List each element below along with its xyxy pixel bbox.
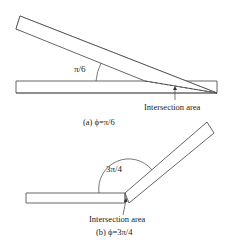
- diagram-svg: π/6 Intersection area (a) ϕ=π/6 3π/4 Int…: [0, 0, 230, 247]
- intersection-label-a: Intersection area: [144, 102, 201, 112]
- panel-b: 3π/4 Intersection area (b) ϕ=3π/4: [26, 122, 214, 237]
- angle-arc-a: [96, 63, 101, 81]
- horizontal-bar-b: [26, 193, 125, 203]
- angle-label-a: π/6: [74, 64, 86, 74]
- caption-a: (a) ϕ=π/6: [83, 117, 115, 127]
- panel-a: π/6 Intersection area (a) ϕ=π/6: [16, 16, 217, 127]
- angle-label-b: 3π/4: [106, 164, 123, 174]
- diagram-canvas: π/6 Intersection area (a) ϕ=π/6 3π/4 Int…: [0, 0, 230, 247]
- diagonal-bar-b: [125, 122, 214, 203]
- caption-b: (b) ϕ=3π/4: [96, 227, 133, 237]
- intersection-label-b: Intersection area: [89, 214, 146, 224]
